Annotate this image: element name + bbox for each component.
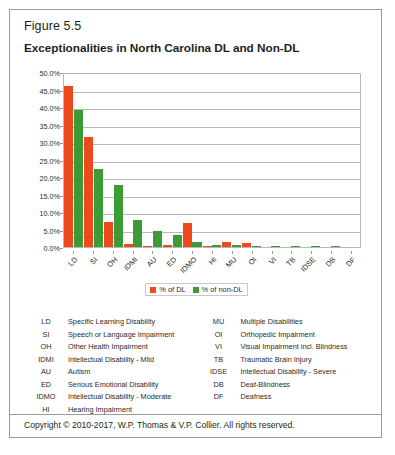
y-axis-labels: 0.0%5.0%10.0%15.0%20.0%25.0%30.0%35.0%40… [24, 73, 60, 248]
abbreviation-value: Other Health Impairment [68, 342, 148, 351]
x-axis-tick-mark [192, 251, 193, 254]
bar-AU-non-dl [153, 231, 162, 247]
y-axis-tick-label: 35.0% [24, 121, 60, 130]
bar-SI-dl [84, 137, 93, 247]
x-axis-tick-mark [331, 251, 332, 254]
abbreviation-row: DBDeaf-Blindness [197, 380, 370, 393]
x-axis-tick-label: IDMO [178, 255, 198, 275]
abbreviation-value: Specific Learning Disability [68, 317, 155, 326]
bar-ED-dl [163, 245, 172, 247]
y-axis-tick-mark [60, 91, 63, 92]
chart-legend: % of DL% of non-DL [24, 283, 369, 296]
bar-chart: 0.0%5.0%10.0%15.0%20.0%25.0%30.0%35.0%40… [24, 65, 369, 305]
x-axis-tick-mark [311, 251, 312, 254]
bar-DB-non-dl [331, 246, 340, 247]
abbreviation-row: EDSerious Emotional Disability [24, 380, 197, 393]
x-axis-tick-mark [291, 251, 292, 254]
bar-group [103, 74, 123, 247]
x-axis-tick-label: TB [285, 255, 298, 268]
abbreviation-key: DB [197, 380, 241, 389]
bar-OI-dl [242, 243, 251, 247]
bar-series-container [64, 74, 360, 247]
abbreviation-row: AUAutism [24, 367, 197, 380]
abbreviation-value: Autism [68, 367, 90, 376]
x-axis-tick-label: LD [66, 255, 79, 268]
legend-swatch-icon [193, 287, 199, 293]
y-axis-tick-label: 30.0% [24, 139, 60, 148]
abbreviation-value: Intellectual Disability - Mild [68, 355, 154, 364]
x-axis-tick-mark [232, 251, 233, 254]
bar-IDMO-non-dl [192, 242, 201, 247]
bar-group [340, 74, 360, 247]
bar-TB-non-dl [291, 246, 300, 247]
bar-group [64, 74, 84, 247]
x-axis-tick-mark [351, 251, 352, 254]
abbreviation-row: IDSEIntellectual Disability - Severe [197, 367, 370, 380]
abbreviation-column-left: LDSpecific Learning DisabilitySISpeech o… [24, 317, 197, 417]
abbreviation-value: Intellectual Disability - Moderate [68, 392, 171, 401]
bar-group [143, 74, 163, 247]
y-axis-tick-label: 0.0% [24, 244, 60, 253]
x-axis-tick-label: OI [246, 255, 258, 267]
abbreviation-value: Deaf-Blindness [241, 380, 290, 389]
abbreviation-row: TBTraumatic Brain Injury [197, 355, 370, 368]
x-axis-tick-mark [133, 251, 134, 254]
abbreviation-value: Hearing Impairment [68, 405, 132, 414]
y-axis-tick-label: 10.0% [24, 209, 60, 218]
y-axis-tick-mark [60, 161, 63, 162]
abbreviation-value: Visual Impairment incl. Blindness [241, 342, 348, 351]
bar-group [281, 74, 301, 247]
legend-label: % of non-DL [202, 285, 243, 294]
bar-LD-non-dl [74, 110, 83, 247]
abbreviation-key: VI [197, 342, 241, 351]
bar-MU-non-dl [232, 245, 241, 247]
legend-item[interactable]: % of non-DL [193, 285, 243, 294]
abbreviation-value: Intellectual Disability - Severe [241, 367, 337, 376]
y-axis-tick-label: 20.0% [24, 174, 60, 183]
x-axis-tick-label: ED [165, 255, 179, 269]
bar-group [321, 74, 341, 247]
bar-IDSE-non-dl [311, 246, 320, 247]
abbreviation-row: DFDeafness [197, 392, 370, 405]
abbreviation-value: Multiple Disabilities [241, 317, 303, 326]
x-axis-tick-label: IDMI [121, 255, 138, 272]
x-axis-labels: LDSIOHIDMIAUEDIDMOHIMUOIVITBIDSEDBDF [63, 251, 361, 281]
bar-VI-non-dl [271, 246, 280, 247]
y-axis-tick-mark [60, 248, 63, 249]
y-axis-tick-mark [60, 231, 63, 232]
abbreviation-key: LD [24, 317, 68, 326]
x-axis-tick-label: HI [207, 255, 219, 267]
bar-group [123, 74, 143, 247]
abbreviation-key: SI [24, 330, 68, 339]
x-axis-tick-mark [152, 251, 153, 254]
bar-ED-non-dl [173, 235, 182, 247]
bar-AU-dl [143, 246, 152, 247]
x-axis-tick-label: SI [88, 255, 99, 266]
abbreviation-row: IDMOIntellectual Disability - Moderate [24, 392, 197, 405]
figure-card: Figure 5.5 Exceptionalities in North Car… [9, 9, 382, 438]
y-axis-tick-mark [60, 196, 63, 197]
bar-IDMI-non-dl [133, 220, 142, 247]
x-axis-tick-label: IDSE [299, 255, 318, 274]
legend-item[interactable]: % of DL [150, 285, 185, 294]
bar-group [84, 74, 104, 247]
bar-OH-non-dl [114, 185, 123, 247]
abbreviation-key: TB [197, 355, 241, 364]
x-axis-tick-mark [93, 251, 94, 254]
bar-group [182, 74, 202, 247]
abbreviation-key: OH [24, 342, 68, 351]
abbreviation-key: DF [197, 392, 241, 401]
legend-box: % of DL% of non-DL [145, 283, 247, 296]
abbreviation-row: HIHearing Impairment [24, 405, 197, 418]
x-axis-tick-mark [252, 251, 253, 254]
abbreviation-row: LDSpecific Learning Disability [24, 317, 197, 330]
y-axis-tick-label: 5.0% [24, 226, 60, 235]
abbreviation-value: Orthopedic Impairment [241, 330, 315, 339]
abbreviation-column-right: MUMultiple DisabilitiesOIOrthopedic Impa… [197, 317, 370, 417]
x-axis-tick-mark [113, 251, 114, 254]
abbreviation-row: OHOther Health Impairment [24, 342, 197, 355]
abbreviation-key: IDMI [24, 355, 68, 364]
y-axis-tick-mark [60, 126, 63, 127]
x-axis-tick-label: OH [105, 255, 119, 269]
legend-swatch-icon [150, 287, 156, 293]
